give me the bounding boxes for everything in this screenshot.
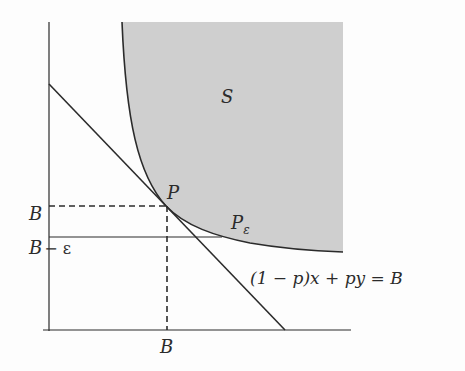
y-tick-b-minus-eps: B− ε [28,237,71,258]
diagram-svg: S P Pε B B− ε B (1 − p)x + py = B [0,0,465,371]
line-equation-label: (1 − p)x + py = B [250,268,403,288]
diagram-canvas: S P Pε B B− ε B (1 − p)x + py = B [0,0,465,371]
x-tick-b: B [159,336,173,357]
label-region-s: S [221,86,233,107]
label-point-p: P [166,182,180,203]
y-tick-b: B [28,203,42,224]
